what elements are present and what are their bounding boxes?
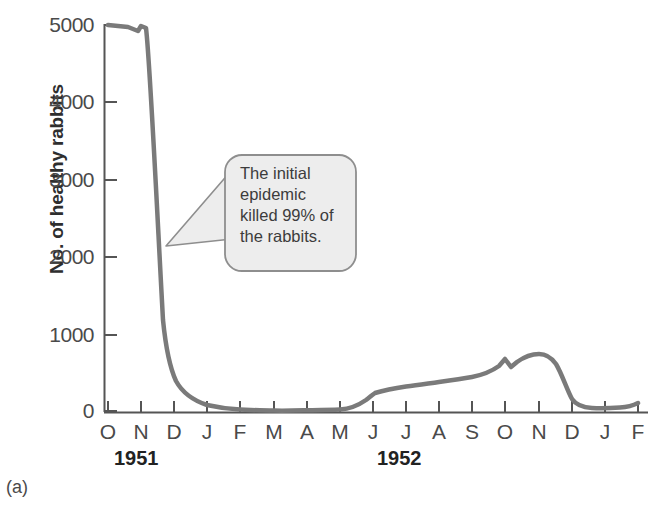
y-tick-label-3000: 3000 [22, 168, 94, 192]
x-tick-label-2: D [159, 420, 189, 444]
y-axis-ticks [105, 25, 117, 411]
x-tick-label-10: A [424, 420, 454, 444]
x-tick-label-3: J [192, 420, 222, 444]
x-tick-label-0: O [93, 420, 123, 444]
x-tick-label-12: O [490, 420, 520, 444]
callout-annotation-text: The initial epidemic killed 99% of the r… [240, 163, 352, 247]
callout-line-4: the rabbits. [240, 226, 352, 247]
x-tick-label-16: F [623, 420, 652, 444]
y-tick-label-1000: 1000 [22, 323, 94, 347]
y-tick-label-2000: 2000 [22, 245, 94, 269]
callout-line-1: The initial [240, 163, 352, 184]
x-tick-label-15: J [590, 420, 620, 444]
y-tick-label-4000: 4000 [22, 90, 94, 114]
x-tick-label-6: A [292, 420, 322, 444]
callout-pointer [166, 172, 232, 246]
x-tick-label-1: N [126, 420, 156, 444]
x-axis-ticks [108, 401, 638, 412]
figure-caption: (a) [6, 477, 28, 498]
x-tick-label-13: N [524, 420, 554, 444]
callout-line-2: epidemic [240, 184, 352, 205]
x-tick-label-7: M [325, 420, 355, 444]
x-tick-label-9: J [391, 420, 421, 444]
x-tick-label-5: M [259, 420, 289, 444]
x-axis-year-label-1952: 1952 [377, 447, 422, 470]
callout-line-3: killed 99% of [240, 205, 352, 226]
x-axis-year-label-1951: 1951 [114, 447, 159, 470]
x-tick-label-4: F [225, 420, 255, 444]
x-tick-label-14: D [557, 420, 587, 444]
y-tick-label-5000: 5000 [22, 13, 94, 37]
healthy-rabbits-line [108, 25, 638, 411]
figure-container: No. of healthy rabbits 5000 4000 3000 20… [0, 0, 652, 510]
x-tick-label-11: S [457, 420, 487, 444]
y-tick-label-0: 0 [22, 399, 94, 423]
x-tick-label-8: J [358, 420, 388, 444]
